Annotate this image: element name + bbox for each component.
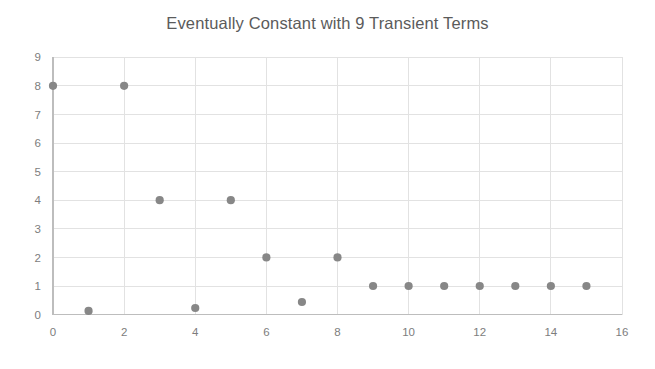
vertical-gridlines	[124, 57, 622, 314]
y-tick-label-3: 3	[35, 223, 41, 235]
y-tick-label-0: 0	[35, 309, 41, 321]
data-point	[511, 282, 519, 290]
data-point	[440, 282, 448, 290]
data-point	[156, 196, 164, 204]
y-tick-label-7: 7	[35, 109, 41, 121]
data-point	[405, 282, 413, 290]
y-tick-label-2: 2	[35, 252, 41, 264]
y-tick-label-1: 1	[35, 280, 41, 292]
data-point	[120, 82, 128, 90]
data-point	[582, 282, 590, 290]
data-point	[298, 298, 306, 306]
data-point	[262, 253, 270, 261]
data-point	[476, 282, 484, 290]
y-axis-tick-labels: 0123456789	[35, 51, 42, 320]
x-tick-label-10: 10	[402, 326, 415, 338]
data-point	[547, 282, 555, 290]
data-point	[191, 304, 199, 312]
data-points	[49, 82, 591, 315]
x-tick-label-0: 0	[50, 326, 56, 338]
scatter-plot: 0123456789 0246810121416	[0, 0, 655, 369]
x-tick-label-8: 8	[334, 326, 340, 338]
x-tick-label-16: 16	[616, 326, 629, 338]
data-point	[49, 82, 57, 90]
chart-container: Eventually Constant with 9 Transient Ter…	[0, 0, 655, 369]
y-tick-label-5: 5	[35, 166, 41, 178]
data-point	[333, 253, 341, 261]
x-tick-label-12: 12	[473, 326, 486, 338]
x-tick-label-6: 6	[263, 326, 269, 338]
x-tick-label-14: 14	[544, 326, 557, 338]
data-point	[84, 307, 92, 315]
data-point	[227, 196, 235, 204]
x-axis-tick-labels: 0246810121416	[50, 326, 629, 338]
x-tick-label-2: 2	[121, 326, 127, 338]
y-tick-label-8: 8	[35, 80, 41, 92]
data-point	[369, 282, 377, 290]
y-tick-label-6: 6	[35, 137, 41, 149]
y-tick-label-4: 4	[35, 194, 42, 206]
y-tick-label-9: 9	[35, 51, 41, 63]
x-tick-label-4: 4	[192, 326, 199, 338]
